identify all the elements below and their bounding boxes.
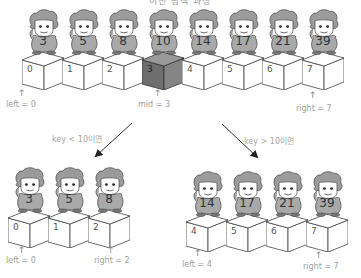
cell-index: 5 <box>231 226 237 236</box>
cell-value: 5 <box>54 192 84 206</box>
cell-index: 4 <box>191 226 197 236</box>
right-pointer-label: right = 7 <box>303 262 339 271</box>
child-figure-icon <box>12 164 48 216</box>
array-cell: 5 1 <box>48 164 90 254</box>
child-figure-icon <box>310 168 346 220</box>
child-figure-icon <box>230 168 266 220</box>
child-figure-icon <box>92 164 128 216</box>
cell-index: 7 <box>311 226 317 236</box>
cell-value: 21 <box>272 196 302 210</box>
left-pointer-label: left = 0 <box>6 256 36 265</box>
up-arrow-icon: ↑ <box>18 245 26 255</box>
cell-value: 39 <box>312 196 342 210</box>
child-figure-icon <box>190 168 226 220</box>
right-branch-condition: key > 10이면 <box>244 135 294 146</box>
cell-index: 2 <box>93 222 99 232</box>
cell-value: 8 <box>94 192 124 206</box>
up-arrow-icon: ↑ <box>107 245 115 255</box>
up-arrow-icon: ↑ <box>194 248 202 258</box>
array-cell: 14 4 <box>186 168 228 258</box>
right-pointer-label: right = 2 <box>94 256 130 265</box>
array-cell: 21 6 <box>266 168 308 258</box>
array-cell: 3 0 <box>8 164 50 254</box>
cell-value: 17 <box>232 196 262 210</box>
child-figure-icon <box>52 164 88 216</box>
left-pointer-label: left = 4 <box>182 260 212 269</box>
left-branch-condition: key < 10이면 <box>52 133 102 144</box>
cell-value: 14 <box>192 196 222 210</box>
cell-index: 0 <box>13 222 19 232</box>
cell-index: 1 <box>53 222 59 232</box>
array-cell: 39 7 <box>306 168 348 258</box>
array-cell: 17 5 <box>226 168 268 258</box>
cell-index: 6 <box>271 226 277 236</box>
array-cell: 8 2 <box>88 164 130 254</box>
up-arrow-icon: ↑ <box>315 250 323 260</box>
cell-value: 3 <box>14 192 44 206</box>
child-figure-icon <box>270 168 306 220</box>
